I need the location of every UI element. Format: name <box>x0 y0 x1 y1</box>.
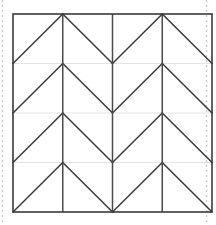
chevron-grid-figure: Chevron Quilt Grid Pattern A square grid… <box>0 0 216 225</box>
figure-canvas: Chevron Quilt Grid Pattern A square grid… <box>0 0 216 225</box>
